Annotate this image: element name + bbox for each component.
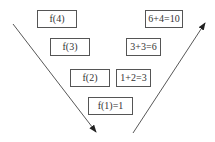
recursion-diagram: f(4) f(3) f(2) f(1)=1 6+4=10 3+3=6 1+2=3 xyxy=(0,0,215,142)
base-case-box-f1: f(1)=1 xyxy=(88,97,133,115)
result-box-1-2-3: 1+2=3 xyxy=(116,69,151,87)
result-box-3-3-6: 3+3=6 xyxy=(126,38,161,56)
call-box-f2: f(2) xyxy=(70,69,110,87)
call-box-f3: f(3) xyxy=(50,38,90,56)
call-box-f4: f(4) xyxy=(37,10,77,28)
result-box-6-4-10: 6+4=10 xyxy=(145,10,183,28)
